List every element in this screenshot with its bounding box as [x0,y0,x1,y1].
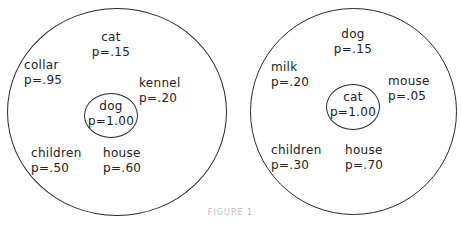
node-probability: p=.70 [345,158,383,173]
center-node-cat: cat p=1.00 [326,90,380,120]
node-house: house p=.70 [345,143,383,173]
node-dog: dog p=.15 [328,27,378,57]
node-word: children [271,143,322,158]
node-probability: p=1.00 [326,105,380,120]
node-word: dog [84,99,138,114]
node-probability: p=.15 [328,42,378,57]
node-word: kennel [139,76,181,91]
node-kennel: kennel p=.20 [139,76,181,106]
node-probability: p=.30 [271,158,322,173]
node-probability: p=.15 [86,45,136,60]
node-word: house [103,146,141,161]
node-word: milk [271,60,309,75]
figure-caption: FIGURE 1 [0,208,461,217]
node-word: children [31,146,82,161]
node-probability: p=.50 [31,161,82,176]
node-probability: p=.95 [24,73,62,88]
node-cat: cat p=.15 [86,30,136,60]
node-probability: p=1.00 [84,114,138,129]
node-word: mouse [388,74,430,89]
node-milk: milk p=.20 [271,60,309,90]
node-probability: p=.20 [271,75,309,90]
node-children: children p=.50 [31,146,82,176]
node-word: dog [328,27,378,42]
node-probability: p=.60 [103,161,141,176]
node-collar: collar p=.95 [24,58,62,88]
node-word: house [345,143,383,158]
node-house: house p=.60 [103,146,141,176]
node-word: collar [24,58,62,73]
node-mouse: mouse p=.05 [388,74,430,104]
node-word: cat [326,90,380,105]
node-probability: p=.05 [388,89,430,104]
center-node-dog: dog p=1.00 [84,99,138,129]
node-word: cat [86,30,136,45]
node-children: children p=.30 [271,143,322,173]
node-probability: p=.20 [139,91,181,106]
